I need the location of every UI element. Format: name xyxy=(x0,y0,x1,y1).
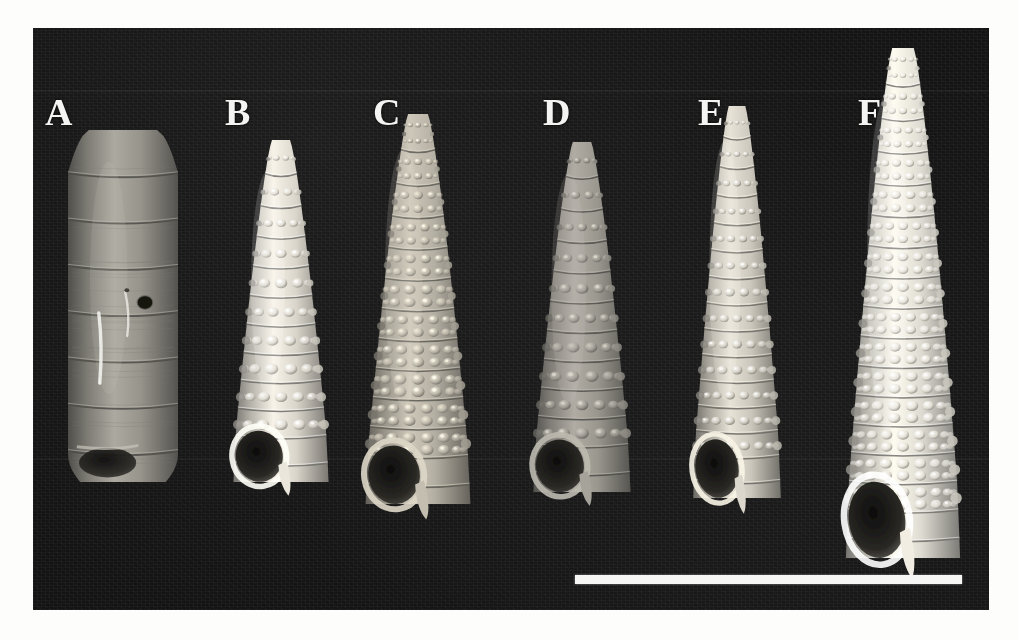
shell-specimen-b xyxy=(224,133,338,489)
shell-specimen-d xyxy=(524,135,640,499)
shell-specimen-c xyxy=(356,107,480,511)
shell-specimen-a xyxy=(61,123,185,489)
shell-specimen-e xyxy=(684,99,790,505)
panel-label-b: B xyxy=(225,93,250,131)
shell-specimen-f xyxy=(836,41,970,565)
panel-label-d: D xyxy=(543,93,570,131)
scale-bar xyxy=(575,575,962,584)
figure-plate: A B C D E F xyxy=(33,28,989,610)
